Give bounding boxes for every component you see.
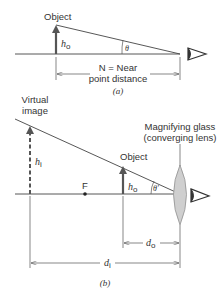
focal-point: [83, 192, 87, 196]
lens-label-2: (converging lens): [144, 132, 217, 143]
object-arrow-a: [52, 25, 60, 54]
converging-lens: [174, 165, 187, 225]
object-height-label-b: ho: [128, 181, 138, 194]
angle-label-a: θ: [125, 44, 129, 53]
eye-icon-b: [191, 189, 209, 202]
object-distance-label: do: [146, 237, 156, 250]
angle-arc-a: [122, 40, 123, 54]
image-height-label: hi: [35, 156, 42, 169]
image-distance-label: di: [104, 257, 111, 270]
panel-a: Object ho θ N = Near point distance (a): [15, 11, 206, 96]
object-label-a: Object: [44, 11, 72, 22]
angle-label-b: θ′: [153, 184, 159, 193]
caption-b: (b): [100, 278, 111, 288]
magnifier-diagram: Object ho θ N = Near point distance (a) …: [0, 0, 224, 295]
object-arrow-b: [119, 166, 127, 194]
focal-point-label: F: [82, 180, 88, 191]
virtual-image-arrow: [26, 126, 34, 194]
height-label-a: ho: [61, 38, 71, 51]
near-point-label-2: point distance: [89, 73, 148, 84]
near-point-label: N = Near: [99, 62, 137, 73]
eye-icon-a: [188, 48, 206, 60]
ray-a: [56, 25, 180, 54]
virtual-image-label: Virtual: [22, 94, 49, 105]
object-label-b: Object: [120, 151, 148, 162]
virtual-image-label-2: image: [22, 105, 48, 116]
lens-label: Magnifying glass: [145, 121, 216, 132]
panel-b: Virtual image Magnifying glass (convergi…: [15, 94, 216, 288]
caption-a: (a): [113, 86, 124, 96]
